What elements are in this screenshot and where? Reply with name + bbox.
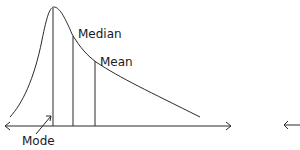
median-label: Median xyxy=(78,27,122,41)
mode-label: Mode xyxy=(22,134,55,148)
mode-pointer-arrow-icon xyxy=(36,116,51,134)
mean-label: Mean xyxy=(100,55,133,69)
right-edge-arrow-icon xyxy=(284,121,300,129)
skewed-distribution-diagram: Median Mean Mode xyxy=(0,0,300,150)
x-axis xyxy=(5,122,231,130)
